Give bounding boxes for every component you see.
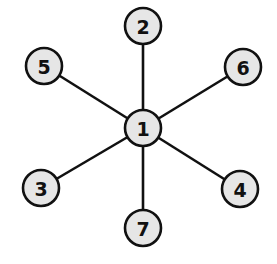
node-6: 6	[225, 49, 261, 85]
node-2: 2	[125, 8, 161, 44]
node-5: 5	[26, 48, 62, 84]
node-label: 5	[37, 56, 50, 78]
node-label: 1	[136, 118, 149, 140]
node-label: 2	[136, 16, 149, 38]
node-label: 6	[236, 57, 249, 79]
node-7: 7	[125, 210, 161, 246]
node-label: 4	[233, 179, 246, 201]
node-label: 3	[34, 178, 47, 200]
star-graph-diagram: 1234567	[0, 0, 277, 264]
node-label: 7	[136, 218, 149, 240]
node-4: 4	[222, 171, 258, 207]
nodes-group: 1234567	[23, 8, 261, 246]
node-3: 3	[23, 170, 59, 206]
node-1: 1	[125, 110, 161, 146]
